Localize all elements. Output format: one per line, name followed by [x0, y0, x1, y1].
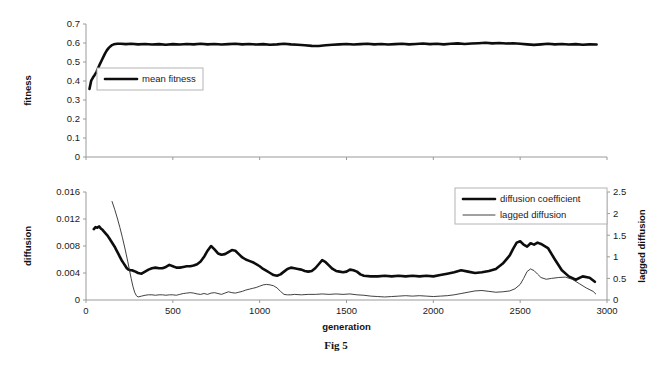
x-axis-title: generation — [322, 321, 371, 332]
y-tick-label: 0 — [75, 151, 80, 162]
x-tick-label: 3000 — [596, 305, 617, 316]
legend-label: lagged diffusion — [500, 209, 566, 220]
series-line-diffusion-coefficient — [94, 226, 595, 281]
legend-label: diffusion coefficient — [500, 193, 581, 204]
y2-tick-label: 0 — [613, 294, 618, 305]
figure-caption: Fig 5 — [0, 339, 672, 351]
x-tick-label: 500 — [165, 305, 181, 316]
y2-axis-title: lagged diffusion — [636, 209, 647, 283]
y2-tick-label: 2 — [613, 208, 618, 219]
legend-label: mean fitness — [142, 73, 196, 84]
x-tick-label: 1500 — [336, 305, 357, 316]
fitness-chart: 00.10.20.30.40.50.60.7fitnessmean fitnes… — [22, 18, 607, 162]
y-tick-label: 0.5 — [67, 56, 80, 67]
y-tick-label: 0.004 — [56, 267, 80, 278]
y2-tick-label: 1.5 — [613, 230, 626, 241]
y-tick-label: 0.4 — [67, 75, 80, 86]
y-tick-label: 0.012 — [56, 213, 80, 224]
y-tick-label: 0 — [75, 294, 80, 305]
y-tick-label: 0.008 — [56, 240, 80, 251]
y-tick-label: 0.2 — [67, 113, 80, 124]
x-tick-label: 1000 — [249, 305, 270, 316]
y-tick-label: 0.7 — [67, 18, 80, 29]
y-axis-title: diffusion — [22, 226, 33, 266]
y-axis-title: fitness — [22, 75, 33, 106]
figure-fig-5: 00.10.20.30.40.50.60.7fitnessmean fitnes… — [0, 0, 672, 365]
y2-tick-label: 0.5 — [613, 273, 626, 284]
diffusion-chart: 00.0040.0080.0120.0160500100015002000250… — [22, 186, 647, 332]
y-tick-label: 0.1 — [67, 132, 80, 143]
x-tick-label: 2000 — [423, 305, 444, 316]
y-tick-label: 0.6 — [67, 37, 80, 48]
y-tick-label: 0.3 — [67, 94, 80, 105]
y2-tick-label: 2.5 — [613, 186, 626, 197]
y-tick-label: 0.016 — [56, 186, 80, 197]
x-tick-label: 2500 — [510, 305, 531, 316]
x-tick-label: 0 — [83, 305, 88, 316]
y2-tick-label: 1 — [613, 251, 618, 262]
